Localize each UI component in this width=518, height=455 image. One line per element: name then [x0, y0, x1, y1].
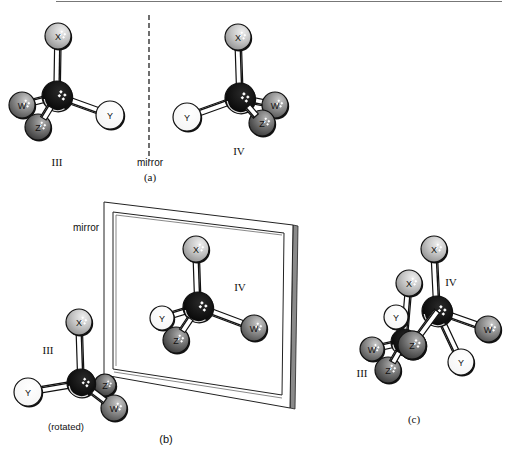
caption-b: (b): [159, 433, 172, 445]
atom-z-front-symbol: Z: [409, 341, 415, 351]
label-iii-b: III: [43, 344, 54, 356]
atom-y-symbol: Y: [184, 113, 190, 123]
atom-w-symbol: W: [18, 101, 27, 111]
caption-c: (c): [408, 413, 421, 426]
atom-x-symbol: X: [55, 32, 61, 42]
atom-y: Y: [96, 101, 125, 131]
atom-z: Z: [375, 357, 402, 385]
atom-y: Y: [173, 103, 202, 133]
label-iv-c: IV: [445, 276, 457, 288]
atom-w-symbol: W: [250, 324, 259, 334]
atom-y: Y: [448, 349, 475, 377]
atom-x: X: [45, 23, 72, 51]
atom-x: X: [66, 309, 93, 337]
atom-z-symbol: Z: [385, 366, 391, 376]
mirror-label-b: mirror: [73, 222, 100, 233]
atom-w-symbol: W: [110, 404, 119, 414]
atom-x-symbol: X: [193, 245, 199, 255]
atom-z-symbol: Z: [173, 336, 179, 346]
atom-w-symbol: W: [271, 101, 280, 111]
molecule-iii-c: XYWZZ: [360, 270, 427, 385]
atom-y: Y: [14, 378, 43, 408]
molecule-iv-a: XYWZ: [173, 24, 289, 138]
label-iii-a: III: [52, 156, 63, 168]
atom-z-symbol: Z: [102, 381, 108, 391]
atom-x-symbol: X: [235, 33, 241, 43]
label-iv-b: IV: [234, 281, 246, 293]
atom-x: X: [396, 270, 423, 298]
carbon-atom-sphere: [67, 369, 95, 397]
label-iv-a: IV: [233, 145, 245, 157]
rotated-note: (rotated): [48, 421, 84, 432]
atom-y-symbol: Y: [458, 358, 464, 368]
label-iii-c: III: [357, 367, 368, 379]
atom-w-symbol: W: [368, 345, 377, 355]
atom-y: Y: [384, 305, 409, 331]
panel-c: XWYZ XYWZZ IV III (c): [357, 236, 503, 426]
atom-y-symbol: Y: [107, 111, 113, 121]
atom-z-symbol: Z: [259, 119, 265, 129]
enantiomer-mirror-figure: mirror (a) XYWZ III XYWZ IV mirror XYWZ …: [0, 0, 518, 455]
caption-a: (a): [144, 171, 157, 184]
bond-z: [245, 105, 258, 118]
atom-x-symbol: X: [431, 245, 437, 255]
panel-b: mirror XYWZ IV XZYW III (rotated) (b): [14, 202, 298, 445]
atom-y-symbol: Y: [159, 314, 165, 324]
atom-y-symbol: Y: [393, 313, 399, 323]
atom-x: X: [225, 24, 252, 52]
atom-x-symbol: X: [406, 279, 412, 289]
mirror-label-a: mirror: [137, 157, 164, 168]
atom-x: X: [421, 236, 448, 264]
panel-a: mirror (a) XYWZ III XYWZ IV: [9, 15, 289, 184]
molecule-iii-a: XYWZ: [9, 23, 125, 142]
atom-w: W: [475, 316, 502, 344]
atom-y-symbol: Y: [25, 388, 31, 398]
atom-z: Z: [25, 114, 52, 142]
atom-x-symbol: X: [76, 318, 82, 328]
bond-z: [41, 105, 53, 120]
atom-w-symbol: W: [484, 325, 493, 335]
atom-z-symbol: Z: [35, 123, 41, 133]
